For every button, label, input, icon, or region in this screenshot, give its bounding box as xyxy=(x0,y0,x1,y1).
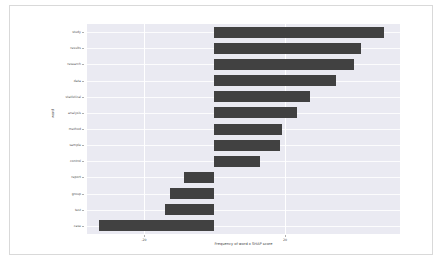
y-tick-mark xyxy=(82,64,84,65)
grid-line-horizontal xyxy=(87,177,400,178)
grid-line-horizontal xyxy=(87,210,400,211)
plot-area xyxy=(87,24,400,234)
bar xyxy=(214,156,260,167)
y-tick-mark xyxy=(82,177,84,178)
bar xyxy=(214,91,309,102)
figure-canvas: studyresultsresearchdatastatisticalanaly… xyxy=(0,0,443,265)
y-tick-mark xyxy=(82,48,84,49)
y-tick-label: study xyxy=(72,30,81,34)
y-tick-mark xyxy=(82,113,84,114)
y-tick-label: group xyxy=(72,192,81,196)
bar xyxy=(214,27,384,38)
y-tick-mark xyxy=(82,210,84,211)
y-tick-label: data xyxy=(74,79,81,83)
y-tick-label: sample xyxy=(69,143,81,147)
y-tick-label: statistical xyxy=(66,95,81,99)
bar xyxy=(214,43,361,54)
bar xyxy=(165,204,215,215)
bar xyxy=(214,59,354,70)
bar xyxy=(170,188,214,199)
bar xyxy=(214,140,279,151)
bar xyxy=(214,75,336,86)
y-tick-mark xyxy=(82,32,84,33)
bar xyxy=(214,124,281,135)
y-tick-mark xyxy=(82,161,84,162)
grid-line-vertical xyxy=(144,24,145,234)
y-axis-tick-labels: studyresultsresearchdatastatisticalanaly… xyxy=(10,24,85,234)
y-tick-label: report xyxy=(71,175,81,179)
grid-line-vertical xyxy=(285,24,286,234)
x-tick-mark xyxy=(144,235,145,237)
x-axis-title: Frequency of word x SHAP score xyxy=(87,242,400,246)
y-tick-label: control xyxy=(70,159,81,163)
bar xyxy=(214,107,297,118)
y-tick-mark xyxy=(82,194,84,195)
y-tick-label: case xyxy=(74,224,81,228)
y-tick-label: results xyxy=(70,46,81,50)
bar xyxy=(184,172,214,183)
y-tick-mark xyxy=(82,145,84,146)
figure-frame: studyresultsresearchdatastatisticalanaly… xyxy=(9,5,433,255)
x-tick-mark xyxy=(285,235,286,237)
y-tick-mark xyxy=(82,226,84,227)
y-tick-label: test xyxy=(75,208,81,212)
y-tick-label: analysis xyxy=(68,111,81,115)
y-tick-mark xyxy=(82,81,84,82)
y-tick-label: method xyxy=(69,127,81,131)
y-tick-mark xyxy=(82,129,84,130)
bar xyxy=(99,220,214,231)
y-tick-label: research xyxy=(67,62,81,66)
y-tick-mark xyxy=(82,97,84,98)
grid-line-horizontal xyxy=(87,194,400,195)
y-axis-title: word xyxy=(51,109,55,118)
